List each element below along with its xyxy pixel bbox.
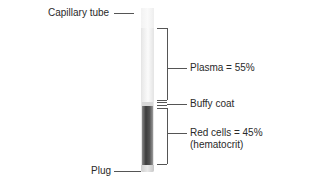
leader-capillary-tube bbox=[114, 13, 134, 14]
plasma-bracket-vertical bbox=[167, 28, 168, 100]
red-cells-bracket-bottom bbox=[157, 164, 167, 165]
plug bbox=[141, 165, 154, 172]
plasma-layer bbox=[142, 28, 153, 102]
buffy-coat-line-1 bbox=[157, 102, 167, 103]
label-red-cells: Red cells = 45% bbox=[190, 127, 263, 139]
label-capillary-tube: Capillary tube bbox=[48, 7, 109, 19]
leader-red-cells bbox=[167, 133, 187, 134]
leader-plug bbox=[114, 171, 141, 172]
tube-empty-top bbox=[141, 8, 154, 28]
capillary-tube bbox=[141, 8, 154, 172]
plasma-bracket-bottom bbox=[157, 100, 167, 101]
plasma-bracket-top bbox=[157, 28, 167, 29]
label-plasma: Plasma = 55% bbox=[190, 62, 255, 74]
buffy-coat-line-2 bbox=[157, 105, 167, 106]
leader-plasma bbox=[167, 68, 187, 69]
label-buffy-coat: Buffy coat bbox=[190, 98, 234, 110]
red-cells-layer bbox=[142, 106, 153, 165]
label-plug: Plug bbox=[91, 165, 111, 177]
label-hematocrit: (hematocrit) bbox=[190, 139, 243, 151]
red-cells-bracket-vertical bbox=[167, 108, 168, 164]
red-cells-bracket-top bbox=[157, 108, 167, 109]
leader-buffy-coat bbox=[167, 104, 187, 105]
